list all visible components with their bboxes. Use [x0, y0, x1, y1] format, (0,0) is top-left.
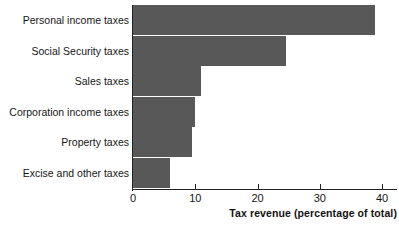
tick-label: 20: [238, 192, 278, 204]
category-label: Social Security taxes: [0, 45, 129, 57]
bar: [133, 5, 375, 35]
tick-label: 10: [175, 192, 215, 204]
tick-mark: [258, 184, 259, 190]
bar: [133, 36, 286, 66]
bar: [133, 66, 201, 96]
bar-chart: Personal income taxesSocial Security tax…: [0, 0, 399, 226]
bar: [133, 127, 192, 157]
category-label: Personal income taxes: [0, 14, 129, 26]
tick-mark: [195, 184, 196, 190]
bar: [133, 158, 170, 188]
category-label: Corporation income taxes: [0, 106, 129, 118]
bar: [133, 97, 195, 127]
tick-label: 40: [362, 192, 399, 204]
tick-mark: [382, 184, 383, 190]
category-label: Property taxes: [0, 136, 129, 148]
tick-label: 0: [113, 192, 153, 204]
x-axis-title: Tax revenue (percentage of total): [229, 207, 397, 219]
category-label: Excise and other taxes: [0, 167, 129, 179]
plot-area: [133, 5, 382, 190]
tick-label: 30: [300, 192, 340, 204]
tick-mark: [320, 184, 321, 190]
category-label: Sales taxes: [0, 75, 129, 87]
